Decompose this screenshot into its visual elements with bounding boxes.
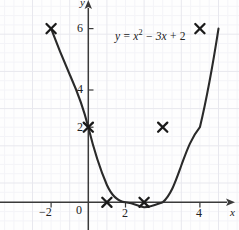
y-tick-label-4: 4: [77, 82, 83, 97]
x-axis-label: x: [230, 206, 235, 218]
equation-minus: −: [146, 30, 153, 42]
x-tick-label-0: 0: [76, 203, 82, 218]
equation-term2: 3x: [156, 30, 167, 42]
equation-annotation: y = x2 − 3x + 2: [115, 30, 186, 42]
x-tick-label-4: 4: [196, 206, 202, 221]
chart-figure: −2 0 2 4 2 4 6 x y y = x2 − 3x + 2: [0, 0, 239, 230]
y-tick-label-2: 2: [77, 120, 83, 135]
x-tick-label-2: 2: [122, 206, 128, 221]
x-tick-label-neg2: −2: [39, 205, 52, 220]
equation-plus: +: [170, 30, 177, 42]
y-axis-label: y: [80, 0, 85, 8]
equation-constant: 2: [180, 30, 186, 42]
y-tick-label-6: 6: [77, 21, 83, 36]
